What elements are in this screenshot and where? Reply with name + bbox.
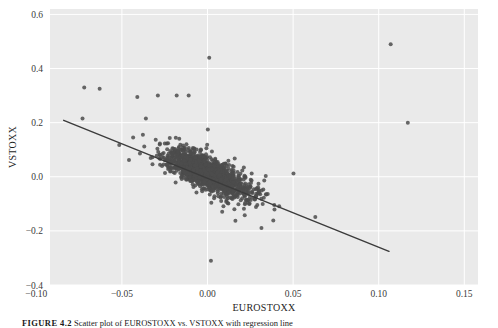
- scatter-point: [250, 190, 254, 194]
- scatter-point: [167, 155, 171, 159]
- y-tick-label: −0.2: [26, 226, 43, 236]
- y-tick-label: 0.2: [31, 118, 43, 128]
- scatter-point: [211, 188, 215, 192]
- scatter-point: [158, 153, 162, 157]
- scatter-point: [209, 259, 213, 263]
- scatter-point: [255, 203, 259, 207]
- scatter-point: [142, 144, 146, 148]
- scatter-point: [219, 178, 223, 182]
- scatter-point: [236, 178, 240, 182]
- scatter-point: [193, 164, 197, 168]
- scatter-point: [171, 151, 175, 155]
- scatter-point: [389, 42, 393, 46]
- scatter-point: [220, 210, 224, 214]
- scatter-point: [240, 196, 244, 200]
- scatter-point: [204, 146, 208, 150]
- scatter-point: [131, 135, 135, 139]
- scatter-point: [313, 215, 317, 219]
- scatter-point: [257, 182, 261, 186]
- scatter-point: [191, 185, 195, 189]
- scatter-point: [257, 189, 261, 193]
- scatter-point: [205, 143, 209, 147]
- x-tick-label: 0.10: [370, 289, 387, 299]
- scatter-point: [256, 185, 260, 189]
- scatter-point: [207, 56, 211, 60]
- scatter-point: [208, 192, 212, 196]
- scatter-point: [221, 163, 225, 167]
- x-tick-label: −0.10: [25, 289, 47, 299]
- scatter-point: [264, 193, 268, 197]
- y-axis-title: VSTOXX: [7, 125, 18, 168]
- scatter-point: [228, 196, 232, 200]
- scatter-point: [175, 94, 179, 98]
- scatter-point: [176, 149, 180, 153]
- y-tick-label: −0.4: [26, 281, 43, 291]
- scatter-point: [213, 157, 217, 161]
- scatter-point: [144, 117, 148, 121]
- scatter-point: [224, 177, 228, 181]
- scatter-point: [165, 142, 169, 146]
- scatter-point: [217, 162, 221, 166]
- scatter-point: [179, 175, 183, 179]
- scatter-point: [186, 148, 190, 152]
- scatter-point: [272, 207, 276, 211]
- scatter-point: [168, 169, 172, 173]
- scatter-point: [237, 174, 241, 178]
- figure-caption-text: Scatter plot of EUROSTOXX vs. VSTOXX wit…: [72, 318, 293, 328]
- x-tick-label: 0.15: [456, 289, 473, 299]
- scatter-point: [174, 180, 178, 184]
- scatter-point: [243, 213, 247, 217]
- scatter-point: [233, 219, 237, 223]
- scatter-point: [228, 174, 232, 178]
- scatter-point: [193, 150, 197, 154]
- scatter-point: [236, 202, 240, 206]
- x-tick-label: 0.00: [199, 289, 216, 299]
- scatter-point: [243, 182, 247, 186]
- scatter-point: [222, 189, 226, 193]
- scatter-point: [199, 148, 203, 152]
- scatter-point: [179, 162, 183, 166]
- scatter-point: [207, 167, 211, 171]
- scatter-point: [291, 171, 295, 175]
- scatter-point: [264, 174, 268, 178]
- scatter-point: [217, 168, 221, 172]
- scatter-point: [209, 201, 213, 205]
- y-tick-label: 0.6: [31, 10, 43, 20]
- scatter-point: [98, 87, 102, 91]
- scatter-point: [206, 128, 210, 132]
- scatter-point: [250, 171, 254, 175]
- scatter-point: [204, 152, 208, 156]
- y-tick-label: 0.0: [31, 172, 43, 182]
- scatter-point: [188, 179, 192, 183]
- x-tick-label: 0.05: [285, 289, 302, 299]
- scatter-point: [173, 171, 177, 175]
- scatter-point: [127, 158, 131, 162]
- scatter-point: [184, 177, 188, 181]
- scatter-point: [208, 155, 212, 159]
- scatter-point: [184, 142, 188, 146]
- scatter-point: [249, 178, 253, 182]
- scatter-point: [232, 207, 236, 211]
- scatter-point: [141, 133, 145, 137]
- scatter-point: [150, 162, 154, 166]
- y-tick-label: 0.4: [31, 64, 43, 74]
- scatter-point: [163, 171, 167, 175]
- scatter-point: [219, 195, 223, 199]
- scatter-point: [198, 169, 202, 173]
- scatter-point: [245, 198, 249, 202]
- scatter-point: [155, 147, 159, 151]
- scatter-point: [243, 174, 247, 178]
- scatter-point: [204, 163, 208, 167]
- scatter-point: [227, 163, 231, 167]
- scatter-point: [221, 204, 225, 208]
- scatter-point: [210, 172, 214, 176]
- scatter-point: [187, 94, 191, 98]
- scatter-point: [202, 168, 206, 172]
- scatter-point: [82, 85, 86, 89]
- scatter-point: [194, 191, 198, 195]
- scatter-point: [182, 158, 186, 162]
- scatter-point: [156, 94, 160, 98]
- scatter-point: [233, 156, 237, 160]
